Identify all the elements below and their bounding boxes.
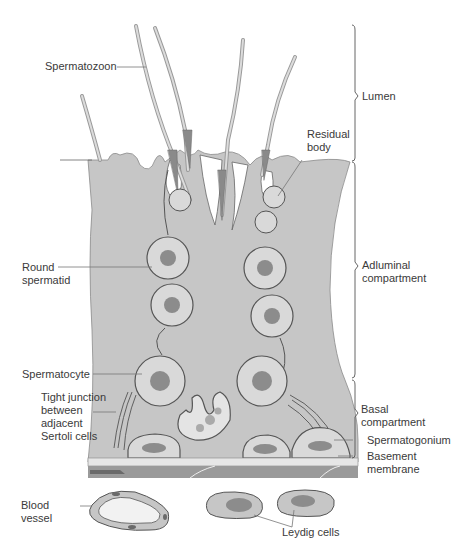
label-residual-body: Residual body: [307, 128, 350, 154]
label-blood-vessel: Blood vessel: [21, 499, 52, 525]
label-tight-junction: Tight junction between adjacent Sertoli …: [41, 391, 106, 443]
label-spermatocyte: Spermatocyte: [22, 368, 90, 381]
label-leydig-cells: Leydig cells: [282, 526, 339, 539]
label-round-spermatid: Round spermatid: [22, 261, 70, 287]
label-adluminal-compartment: Adluminal compartment: [362, 259, 426, 285]
label-spermatogonium: Spermatogonium: [367, 434, 451, 447]
compartment-brackets: [352, 25, 358, 458]
label-lumen: Lumen: [362, 90, 396, 103]
basement-membrane: [88, 458, 358, 478]
label-spermatozoon: Spermatozoon: [45, 60, 117, 73]
blood-vessel: [90, 491, 169, 530]
leydig-cells: [206, 490, 334, 519]
label-basal-compartment: Basal compartment: [361, 403, 425, 429]
label-basement-membrane: Basement membrane: [367, 450, 420, 476]
